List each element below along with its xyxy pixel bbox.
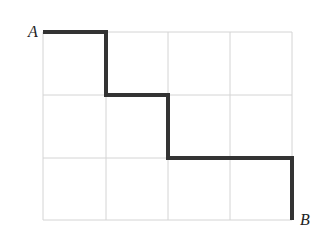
- label-b: B: [300, 211, 310, 228]
- label-a: A: [27, 23, 38, 40]
- grid-path-diagram: A B: [0, 0, 327, 240]
